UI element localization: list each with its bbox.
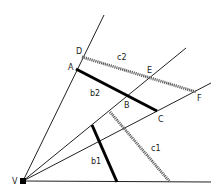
segment-label-c2: c2 <box>117 53 127 62</box>
point-label-a: A <box>68 63 74 72</box>
point-label-d: D <box>76 47 82 56</box>
labels-group: DAEBCFVb2c2b1c1 <box>12 47 202 186</box>
point-label-v: V <box>12 177 18 186</box>
diagram-canvas: DAEBCFVb2c2b1c1 <box>0 0 223 192</box>
point-label-f: F <box>197 94 202 103</box>
point-label-c: C <box>158 115 164 124</box>
point-label-e: E <box>147 66 152 75</box>
segment-label-b2: b2 <box>90 89 100 98</box>
point-label-b: B <box>124 101 130 110</box>
ray-vf <box>23 83 211 181</box>
vertex-marker <box>20 178 26 184</box>
segment-label-c1: c1 <box>151 144 161 153</box>
segment-label-b1: b1 <box>91 157 101 166</box>
rays-group <box>23 15 211 182</box>
geometry-diagram: DAEBCFVb2c2b1c1 <box>0 0 223 192</box>
